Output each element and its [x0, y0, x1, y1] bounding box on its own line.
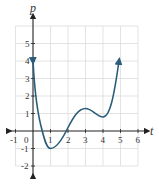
function-curve: [33, 61, 119, 149]
x-tick-label: 5: [118, 135, 123, 145]
y-axis-label: p: [29, 1, 36, 15]
graph: p t 0 -1 1 2 3 4 5 6 5 4 3 2 1 -1 -2: [0, 0, 159, 185]
x-tick-label: 2: [66, 135, 71, 145]
y-tick-label: -1: [21, 144, 29, 154]
x-tick-label: 4: [101, 135, 106, 145]
y-tick-label: 4: [25, 56, 30, 66]
x-tick-label: 3: [83, 135, 88, 145]
y-tick-label: 2: [25, 91, 30, 101]
x-tick-label: 6: [136, 135, 141, 145]
y-tick-label: 5: [25, 39, 30, 49]
y-tick-label: 1: [25, 109, 30, 119]
y-tick-label: 3: [25, 74, 30, 84]
x-tick-label: 1: [48, 135, 53, 145]
x-tick-label: -1: [10, 135, 18, 145]
y-tick-label: -2: [21, 161, 29, 171]
x-axis-label: t: [150, 124, 154, 138]
